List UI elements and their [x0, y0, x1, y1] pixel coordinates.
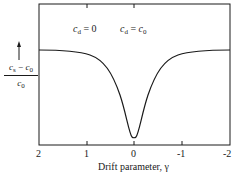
x-axis-ticks — [87, 141, 182, 145]
y-den-sub: 0 — [21, 82, 25, 90]
annotation-cd-zero: cd = 0 — [73, 24, 97, 36]
y-num-op: − — [16, 62, 26, 72]
x-tick-label: -1 — [177, 149, 185, 159]
concentration-curve — [39, 50, 230, 138]
annotation-cd-c0: cd = c0 — [120, 24, 147, 36]
x-axis-label: Drift parameter, γ — [98, 162, 169, 172]
annot-rest: = 0 — [81, 23, 97, 34]
x-tick-label: 0 — [131, 149, 136, 159]
y-label-numerator: cs − c0 — [4, 62, 38, 76]
y-label-denominator: c0 — [4, 76, 38, 90]
top-ticks — [87, 4, 134, 8]
y-axis-arrow-icon — [17, 41, 21, 60]
annot-eq: = — [128, 23, 139, 34]
x-tick-label: 1 — [84, 149, 89, 159]
y-num-b-sub: 0 — [29, 66, 33, 74]
x-tick-label: -2 — [223, 149, 231, 159]
x-tick-label: 2 — [36, 149, 41, 159]
annot-sub2: 0 — [143, 28, 147, 36]
y-axis-label: cs − c0 c0 — [4, 62, 38, 90]
